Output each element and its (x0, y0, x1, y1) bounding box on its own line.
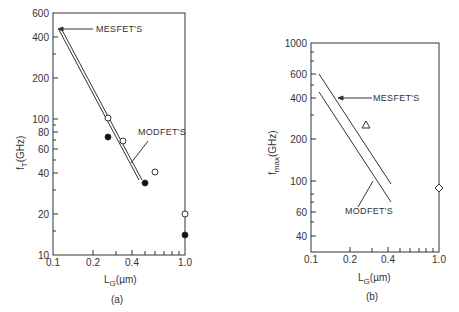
y-tick-label: 60 (38, 144, 50, 155)
y-tick-label: 100 (32, 114, 49, 125)
caption-a: (a) (111, 294, 123, 305)
y-tick-label: 80 (38, 127, 50, 138)
chart-a-labels: 600 400 200 100 80 60 40 20 10 0.1 0.2 0… (15, 8, 192, 305)
arrow-head-icon (338, 96, 343, 100)
x-axis-label: LG(µm) (358, 272, 391, 286)
y-tick-label: 600 (290, 69, 307, 80)
x-tick-label: 0.2 (343, 254, 357, 265)
y-axis-label: fmax(GHz) (267, 130, 281, 175)
chart-b-x-ticks (350, 247, 433, 252)
x-tick-label: 1.0 (178, 257, 192, 268)
modfet-annotation: MODFET'S (345, 206, 393, 216)
chart-b-modfet-arrow (358, 181, 373, 207)
chart-a-open-point (152, 169, 158, 175)
x-tick-label: 0.4 (125, 257, 139, 268)
chart-b-diamond-point (435, 184, 443, 192)
chart-a-open-point (120, 138, 126, 144)
chart-a-filled-point (182, 232, 188, 238)
y-tick-label: 400 (290, 93, 307, 104)
chart-a-filled-point (105, 134, 111, 140)
chart-a-x-ticks (93, 250, 179, 255)
chart-b-y-ticks (311, 52, 316, 236)
y-tick-label: 400 (32, 32, 49, 43)
chart-b-modfet-line (319, 92, 391, 202)
x-tick-label: 0.2 (86, 257, 100, 268)
x-tick-label: 0.1 (304, 254, 318, 265)
chart-a-y-ticks (53, 37, 58, 231)
x-tick-label: 0.1 (46, 257, 60, 268)
y-tick-label: 20 (38, 209, 50, 220)
y-tick-label: 1000 (285, 38, 308, 49)
x-tick-label: 0.4 (381, 254, 395, 265)
chart-a-mesfet-line (59, 30, 139, 180)
mesfet-annotation: MESFET'S (373, 93, 420, 103)
y-tick-label: 600 (32, 8, 49, 19)
y-axis-label: fT(GHz) (15, 136, 29, 170)
chart-a-modfet-arrow (131, 141, 148, 163)
chart-b-mesfet-line (319, 74, 391, 184)
y-tick-label: 100 (290, 176, 307, 187)
chart-b-frame (311, 43, 439, 252)
y-tick-label: 40 (296, 231, 308, 242)
figure: 600 400 200 100 80 60 40 20 10 0.1 0.2 0… (0, 0, 459, 312)
y-tick-label: 200 (290, 134, 307, 145)
chart-b-triangle-point (362, 121, 370, 128)
chart-a-filled-point (142, 180, 148, 186)
chart-a-modfet-line (62, 30, 142, 180)
x-tick-label: 1.0 (432, 254, 446, 265)
caption-b: (b) (366, 291, 378, 302)
modfet-annotation: MODFET'S (138, 127, 186, 137)
x-axis-label: LG(µm) (104, 274, 137, 288)
y-tick-label: 40 (38, 168, 50, 179)
mesfet-annotation: MESFET'S (96, 24, 143, 34)
y-tick-label: 200 (32, 73, 49, 84)
chart-b-labels: 1000 600 400 200 100 60 40 0.1 0.2 0.4 1… (267, 38, 446, 302)
chart-b (311, 43, 443, 252)
y-tick-label: 60 (296, 207, 308, 218)
chart-a-open-point (182, 211, 188, 217)
chart-a-open-point (105, 115, 111, 121)
